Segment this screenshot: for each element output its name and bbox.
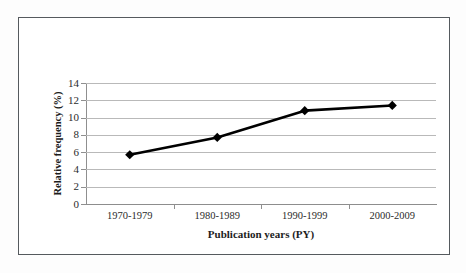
y-axis-tick-label: 8 xyxy=(55,129,79,140)
plot-area xyxy=(86,83,436,204)
y-axis-tick-label: 14 xyxy=(55,78,79,89)
x-axis-tick-label: 1980-1989 xyxy=(195,210,241,221)
y-axis-tick-label: 12 xyxy=(55,95,79,106)
y-axis-title-container: Relative frequency (%) xyxy=(31,78,51,208)
y-axis-tick-mark xyxy=(81,118,86,119)
y-axis-tick-labels: 02468101214 xyxy=(51,83,79,204)
y-axis-tick-label: 6 xyxy=(55,147,79,158)
x-axis-tick-label: 1990-1999 xyxy=(282,210,328,221)
y-axis-tick-mark xyxy=(81,135,86,136)
x-axis-tick-mark xyxy=(349,204,350,209)
y-axis-tick-label: 2 xyxy=(55,181,79,192)
y-axis-tick-mark xyxy=(81,187,86,188)
y-axis-tick-label: 10 xyxy=(55,112,79,123)
chart-area: Relative frequency (%) 02468101214 1970-… xyxy=(19,18,451,256)
series-line xyxy=(130,105,393,154)
line-series xyxy=(86,83,436,204)
page-background: Relative frequency (%) 02468101214 1970-… xyxy=(0,0,466,273)
y-axis-tick-mark xyxy=(81,152,86,153)
y-axis-tick-mark xyxy=(81,83,86,84)
y-axis-tick-mark xyxy=(81,100,86,101)
y-axis-tick-mark xyxy=(81,169,86,170)
y-axis-tick-label: 0 xyxy=(55,199,79,210)
data-point-marker xyxy=(300,106,309,115)
data-point-marker xyxy=(388,101,397,110)
y-axis-tick-mark xyxy=(81,204,86,205)
x-axis-tick-mark xyxy=(261,204,262,209)
data-point-marker xyxy=(125,150,134,159)
x-axis-tick-label: 1970-1979 xyxy=(107,210,153,221)
figure-frame: Relative frequency (%) 02468101214 1970-… xyxy=(18,17,450,255)
data-point-marker xyxy=(213,133,222,142)
x-axis-tick-label: 2000-2009 xyxy=(370,210,416,221)
x-axis-tick-mark xyxy=(174,204,175,209)
y-axis-tick-label: 4 xyxy=(55,164,79,175)
x-axis-title: Publication years (PY) xyxy=(86,228,436,240)
